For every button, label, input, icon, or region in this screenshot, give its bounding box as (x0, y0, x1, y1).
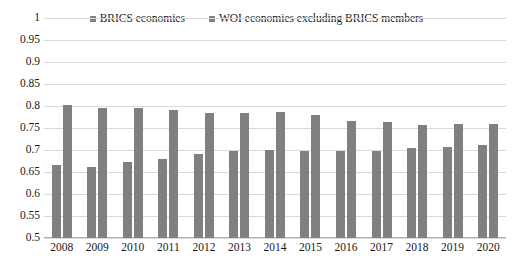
bar-group (293, 18, 329, 238)
bar-chart: BRICS economies WOI economies excluding … (0, 0, 513, 269)
bar[interactable] (300, 151, 309, 238)
bar[interactable] (407, 148, 416, 238)
bar[interactable] (205, 113, 214, 238)
bar[interactable] (443, 147, 452, 238)
y-axis-tick-label: 0.95 (0, 34, 40, 46)
bar[interactable] (276, 112, 285, 238)
bar[interactable] (265, 150, 274, 238)
x-axis-tick-label: 2017 (364, 242, 400, 262)
bar[interactable] (158, 159, 167, 238)
x-axis-tick-label: 2014 (257, 242, 293, 262)
bar[interactable] (336, 151, 345, 238)
bar[interactable] (98, 108, 107, 238)
bar-group (257, 18, 293, 238)
bar-group (115, 18, 151, 238)
y-axis-tick-label: 1 (0, 12, 40, 24)
x-axis-tick-label: 2016 (328, 242, 364, 262)
y-axis-tick-label: 0.8 (0, 100, 40, 112)
bar-group (435, 18, 471, 238)
x-axis-tick-label: 2011 (151, 242, 187, 262)
x-axis-tick-label: 2018 (399, 242, 435, 262)
bar-group (186, 18, 222, 238)
bar[interactable] (311, 115, 320, 238)
bar-group (80, 18, 116, 238)
y-axis-tick-label: 0.75 (0, 122, 40, 134)
bar-group (328, 18, 364, 238)
y-axis-tick-label: 0.7 (0, 144, 40, 156)
y-axis-tick-label: 0.6 (0, 188, 40, 200)
x-axis-tick-label: 2012 (186, 242, 222, 262)
y-axis-tick-label: 0.65 (0, 166, 40, 178)
bar-group (399, 18, 435, 238)
y-axis-tick-label: 0.85 (0, 78, 40, 90)
bar[interactable] (347, 121, 356, 238)
bar[interactable] (123, 162, 132, 238)
gridline (44, 238, 506, 239)
bar[interactable] (489, 124, 498, 238)
y-axis-tick-label: 0.9 (0, 56, 40, 68)
bar-group (364, 18, 400, 238)
x-axis-tick-label: 2010 (115, 242, 151, 262)
bar[interactable] (418, 125, 427, 238)
bar[interactable] (372, 151, 381, 238)
bar[interactable] (229, 151, 238, 238)
bar[interactable] (169, 110, 178, 238)
x-axis: 2008200920102011201220132014201520162017… (44, 242, 506, 262)
x-axis-tick-label: 2013 (222, 242, 258, 262)
bar[interactable] (134, 108, 143, 238)
bar[interactable] (63, 105, 72, 238)
bar-group (44, 18, 80, 238)
y-axis-tick-label: 0.55 (0, 210, 40, 222)
plot-area (44, 18, 506, 238)
y-axis-tick-label: 0.5 (0, 232, 40, 244)
bar[interactable] (87, 167, 96, 238)
bar-group (151, 18, 187, 238)
bar[interactable] (52, 165, 61, 238)
y-axis: 10.950.90.850.80.750.70.650.60.550.5 (0, 0, 40, 269)
bar[interactable] (383, 122, 392, 238)
x-axis-tick-label: 2009 (80, 242, 116, 262)
bar-group (470, 18, 506, 238)
bar-series-layer (44, 18, 506, 238)
x-axis-tick-label: 2008 (44, 242, 80, 262)
bar[interactable] (454, 124, 463, 238)
bar[interactable] (194, 154, 203, 238)
x-axis-tick-label: 2020 (470, 242, 506, 262)
bar-group (222, 18, 258, 238)
x-axis-tick-label: 2019 (435, 242, 471, 262)
x-axis-tick-label: 2015 (293, 242, 329, 262)
bar[interactable] (240, 113, 249, 238)
bar[interactable] (478, 145, 487, 238)
